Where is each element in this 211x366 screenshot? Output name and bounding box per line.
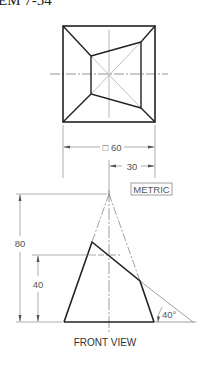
front-view-label: FRONT VIEW [74, 337, 137, 348]
corner-edge-tr [141, 26, 155, 42]
metric-badge: METRIC [131, 183, 172, 195]
inner-diagonal-1 [91, 56, 141, 108]
metric-badge-label: METRIC [133, 184, 170, 195]
inner-diagonal-2 [91, 42, 141, 94]
height-cut-dimension: 40 [32, 255, 96, 322]
top-view [50, 26, 168, 122]
corner-edge-tl [63, 26, 91, 56]
square-size-label: □ 60 [103, 142, 122, 153]
height-cut-label: 40 [33, 279, 44, 290]
height-total-dimension: 80 [15, 194, 107, 322]
phantom-left-edge [92, 194, 109, 242]
technical-drawing: □ 60 30 METRIC 40° [0, 0, 211, 366]
offset-label: 30 [127, 161, 138, 172]
corner-edge-bl [63, 94, 91, 122]
front-view: 40° [64, 190, 196, 332]
inner-trapezoid [91, 42, 141, 108]
corner-edge-br [141, 108, 155, 122]
angle-label: 40° [162, 309, 177, 320]
height-total-label: 80 [15, 238, 26, 249]
